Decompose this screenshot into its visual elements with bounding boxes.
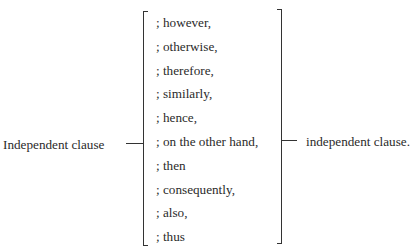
left-independent-clause-label: Independent clause — [3, 138, 104, 151]
left-bracket — [143, 11, 148, 246]
right-connector-dash — [281, 140, 297, 141]
transition-item: ; however, — [156, 16, 258, 40]
transition-item: ; thus — [156, 230, 258, 249]
transition-item: ; consequently, — [156, 183, 258, 207]
transition-list: ; however, ; otherwise, ; therefore, ; s… — [156, 16, 258, 249]
transition-item: ; hence, — [156, 111, 258, 135]
left-connector-dash — [126, 143, 143, 144]
right-independent-clause-label: independent clause. — [306, 135, 410, 148]
transition-item: ; therefore, — [156, 64, 258, 88]
transition-item: ; on the other hand, — [156, 135, 258, 159]
transition-item: ; otherwise, — [156, 40, 258, 64]
transition-item: ; then — [156, 159, 258, 183]
transition-item: ; also, — [156, 206, 258, 230]
transition-item: ; similarly, — [156, 87, 258, 111]
right-bracket — [277, 9, 282, 244]
